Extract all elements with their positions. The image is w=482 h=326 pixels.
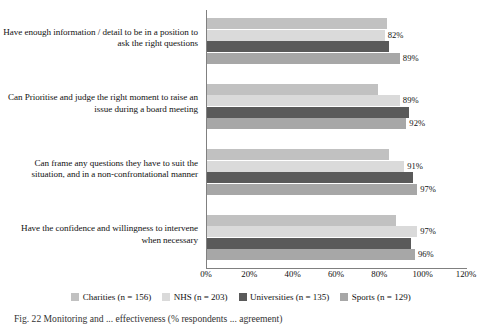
- bar-value-label: 96%: [415, 249, 434, 260]
- legend-label: Charities (n = 156): [83, 292, 151, 303]
- bar: [207, 41, 389, 52]
- bars-container: 82%89%89%92%91%97%97%96%: [207, 10, 467, 268]
- x-axis-tick: 40%: [285, 268, 301, 280]
- legend-item[interactable]: Charities (n = 156): [71, 292, 151, 303]
- bar: [207, 238, 411, 249]
- legend-swatch-icon: [340, 293, 348, 301]
- figure-caption: Fig. 22 Monitoring and ... effectiveness…: [14, 313, 474, 326]
- plot-wrapper: Have enough information / detail to be i…: [0, 6, 482, 274]
- bar-chart: Have enough information / detail to be i…: [0, 0, 482, 326]
- bar: [207, 226, 417, 237]
- category-label: Have the confidence and willingness to i…: [2, 223, 198, 246]
- bar-value-label: 89%: [400, 95, 419, 106]
- bar: [207, 172, 413, 183]
- bar-value-label: 97%: [417, 226, 436, 237]
- bar: [207, 18, 387, 29]
- bar-value-label: 97%: [417, 184, 436, 195]
- bar: [207, 249, 415, 260]
- bar-group: 89%92%: [207, 84, 467, 132]
- bar-value-label: 91%: [404, 161, 423, 172]
- category-label-column: Have enough information / detail to be i…: [2, 6, 202, 268]
- plot-area: 82%89%89%92%91%97%97%96%: [206, 10, 467, 269]
- bar: [207, 30, 385, 41]
- x-axis-tick: 100%: [412, 268, 433, 280]
- bar: [207, 118, 406, 129]
- bar: [207, 215, 396, 226]
- bar-value-label: 92%: [406, 118, 425, 129]
- x-axis-tick: 120%: [456, 268, 477, 280]
- bar: [207, 95, 400, 106]
- category-label: Have enough information / detail to be i…: [2, 27, 198, 50]
- legend-item[interactable]: NHS (n = 203): [162, 292, 227, 303]
- category-label: Can Prioritise and judge the right momen…: [2, 92, 198, 115]
- legend-label: NHS (n = 203): [174, 292, 228, 303]
- bar: [207, 184, 417, 195]
- bar-group: 97%96%: [207, 215, 467, 263]
- legend-item[interactable]: Universities (n = 135): [239, 292, 330, 303]
- x-axis-tick: 80%: [371, 268, 387, 280]
- bar-group: 82%89%: [207, 18, 467, 66]
- bar: [207, 53, 400, 64]
- legend-label: Universities (n = 135): [250, 292, 329, 303]
- bar: [207, 161, 404, 172]
- legend-swatch-icon: [162, 293, 170, 301]
- bar-value-label: 82%: [385, 30, 404, 41]
- legend-swatch-icon: [239, 293, 247, 301]
- legend-swatch-icon: [71, 293, 79, 301]
- bar: [207, 84, 378, 95]
- bar-value-label: 89%: [400, 53, 419, 64]
- bar-group: 91%97%: [207, 149, 467, 197]
- chart-legend: Charities (n = 156)NHS (n = 203)Universi…: [0, 289, 482, 305]
- x-axis-tick-labels: 0%20%40%60%80%100%120%: [206, 268, 474, 282]
- x-axis-tick: 60%: [328, 268, 344, 280]
- x-axis-tick: 0%: [200, 268, 212, 280]
- legend-item[interactable]: Sports (n = 129): [340, 292, 410, 303]
- legend-label: Sports (n = 129): [352, 292, 411, 303]
- bar: [207, 149, 389, 160]
- bar: [207, 107, 409, 118]
- category-label: Can frame any questions they have to sui…: [2, 158, 198, 181]
- x-axis-tick: 20%: [241, 268, 257, 280]
